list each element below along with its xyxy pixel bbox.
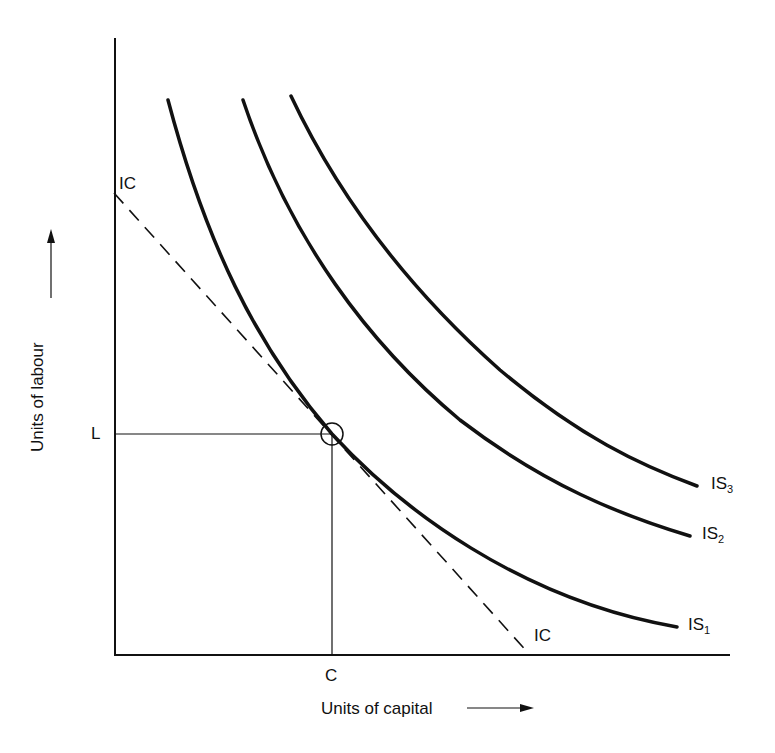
isocost-label-bottom: IC [534,626,551,646]
y-axis-title: Units of labour [28,342,48,452]
isocost-label-top: IC [119,174,136,194]
isoquant-3 [291,96,697,486]
labour-tick-label: L [91,424,100,444]
isoquant-2 [243,100,690,536]
x-axis-arrow-icon [520,704,534,712]
isoquant-2-label-sub: 2 [718,533,724,545]
isoquant-1 [168,100,677,627]
isoquant-3-label-sub: 3 [727,483,733,495]
isoquant-3-label: IS3 [711,474,733,494]
isoquant-1-label-text: IS [688,615,704,634]
isoquant-1-label-sub: 1 [704,624,710,636]
y-axis-arrow-icon [47,229,55,243]
isoquant-2-label-text: IS [702,524,718,543]
capital-tick-label: C [325,666,337,686]
isoquant-1-label: IS1 [688,615,710,635]
x-axis-title: Units of capital [321,699,433,719]
isoquant-3-label-text: IS [711,474,727,493]
isoquant-chart [0,0,775,753]
isoquant-2-label: IS2 [702,524,724,544]
